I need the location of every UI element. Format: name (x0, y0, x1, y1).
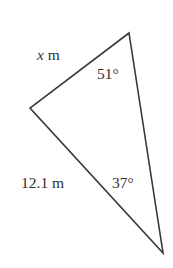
label-side-unknown: x m (37, 47, 60, 63)
label-angle-top: 51° (97, 66, 119, 82)
triangle-figure: x m 51° 12.1 m 37° (0, 0, 173, 268)
label-side-unknown-variable: x (37, 46, 44, 63)
triangle-shape (0, 0, 173, 268)
label-side-unknown-unit: m (48, 46, 60, 63)
label-angle-bottom: 37° (112, 175, 134, 191)
label-side-known: 12.1 m (21, 175, 64, 191)
